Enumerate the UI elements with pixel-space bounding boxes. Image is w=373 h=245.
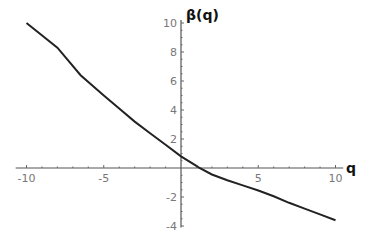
y-tick-label: 2 <box>170 133 177 146</box>
x-tick-label: 5 <box>255 172 262 185</box>
x-tick-label: -5 <box>98 172 109 185</box>
x-tick-label: -10 <box>18 172 36 185</box>
x-tick-label: 10 <box>329 172 343 185</box>
x-axis-label: q <box>346 160 356 176</box>
axes: -10-5510108642-2-4 <box>16 17 344 233</box>
plot-area: -10-5510108642-2-4 β(q) q <box>0 0 373 245</box>
y-tick-label: 6 <box>170 75 177 88</box>
y-tick-label: -4 <box>166 220 177 233</box>
y-axis-label: β(q) <box>186 7 219 23</box>
y-tick-label: 10 <box>163 17 177 30</box>
y-tick-label: 4 <box>170 104 177 117</box>
y-tick-label: 8 <box>170 46 177 59</box>
y-tick-label: -2 <box>166 191 177 204</box>
